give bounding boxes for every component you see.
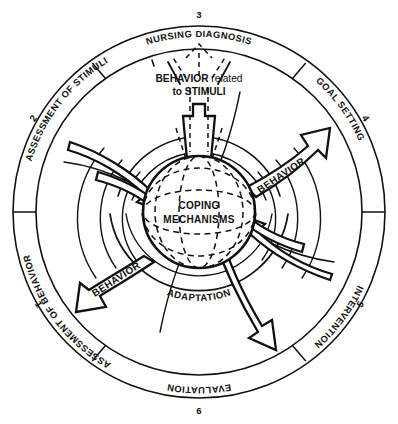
stimuli-note-line2: to STIMULI [172,86,225,97]
coping-mechanisms-sphere [143,156,255,268]
stimuli-note-line1: BEHAVIOR related [155,73,242,84]
segment-number-6: 6 [196,405,201,416]
center-label-line1: COPING [178,200,219,211]
segment-number-3: 3 [196,9,201,20]
roy-adaptation-model-diagram: NURSING DIAGNOSIS ASSESSMENT OF STIMULI … [0,0,398,424]
diagram-canvas: NURSING DIAGNOSIS ASSESSMENT OF STIMULI … [0,0,398,424]
center-label-line2: MECHANISMS [163,214,234,225]
stimuli-note-strong: BEHAVIOR [155,73,209,84]
core-circle [143,156,255,268]
stimuli-note-soft: related [209,73,243,84]
